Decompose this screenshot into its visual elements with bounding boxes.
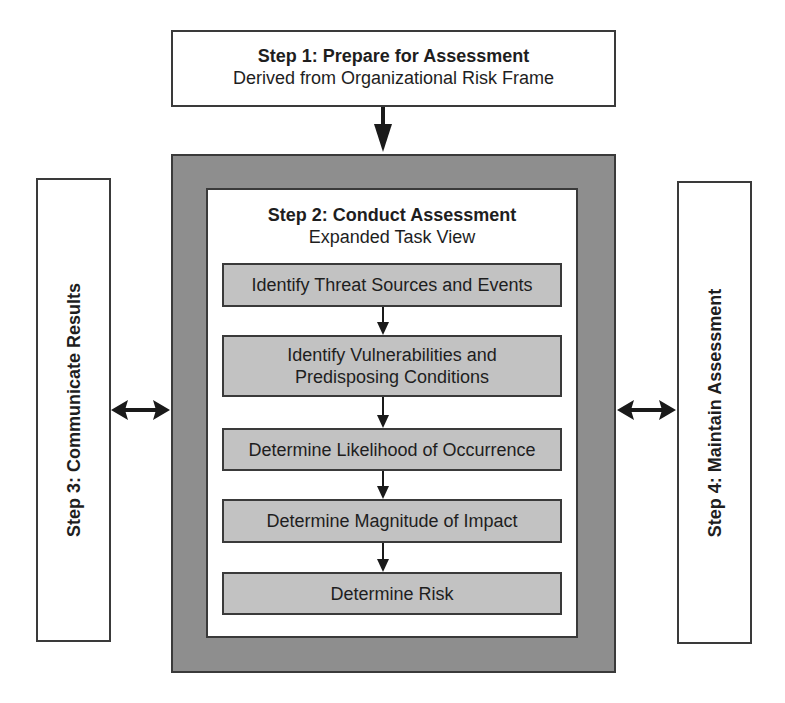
down-arrow-icon [377,543,389,572]
double-arrow-icon [111,400,170,420]
down-arrow-icon [377,471,389,499]
down-arrow-icon [374,107,392,152]
down-arrow-icon [377,397,389,428]
down-arrow-icon [377,307,389,335]
connector-arrows [0,0,785,703]
double-arrow-icon [617,400,676,420]
